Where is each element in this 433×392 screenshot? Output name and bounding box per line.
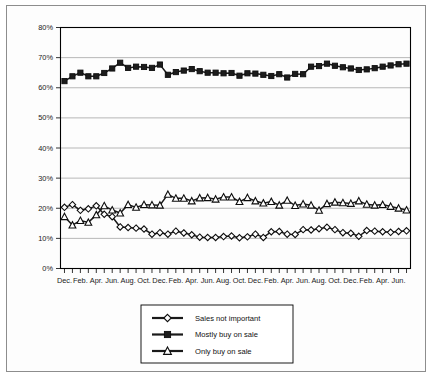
x-axis-tick-label: Feb. <box>168 276 183 285</box>
data-point-marker <box>62 79 67 84</box>
x-axis-tick-label: Feb. <box>359 276 374 285</box>
data-point-marker <box>141 64 146 69</box>
data-point-marker <box>221 71 226 76</box>
y-axis-labels: 0%10%20%30%40%50%60%70%80% <box>38 23 53 273</box>
x-axis-ticks <box>64 269 406 274</box>
y-axis-tick-label: 70% <box>38 53 53 62</box>
data-point-marker <box>197 69 202 74</box>
data-point-marker <box>85 206 91 212</box>
data-point-marker <box>133 225 139 231</box>
data-point-marker <box>285 75 290 80</box>
data-point-marker <box>189 232 195 238</box>
data-point-marker <box>212 234 218 240</box>
data-point-marker <box>253 71 258 76</box>
data-point-marker <box>387 229 393 235</box>
data-point-marker <box>380 64 385 69</box>
data-point-marker <box>236 198 243 204</box>
data-point-marker <box>324 61 329 66</box>
data-point-marker <box>388 63 393 68</box>
data-point-marker <box>395 228 401 234</box>
data-point-marker <box>245 71 250 76</box>
x-axis-tick-label: Oct. <box>328 276 342 285</box>
data-point-marker <box>118 60 123 65</box>
data-point-marker <box>301 72 306 77</box>
gridlines <box>61 28 411 239</box>
data-point-marker <box>364 67 369 72</box>
data-point-marker <box>277 72 282 77</box>
data-point-marker <box>78 70 83 75</box>
data-point-marker <box>340 229 346 235</box>
data-point-marker <box>403 228 409 234</box>
data-point-marker <box>133 64 138 69</box>
y-axis-ticks <box>56 28 61 269</box>
y-axis-tick-label: 40% <box>38 144 53 153</box>
data-point-marker <box>356 67 361 72</box>
legend-label: Only buy on sale <box>195 347 252 356</box>
x-axis-tick-label: Jun. <box>392 276 406 285</box>
data-point-marker <box>348 230 354 236</box>
legend-item-only-buy-on-sale[interactable]: Only buy on sale <box>152 347 252 356</box>
data-point-marker <box>102 70 107 75</box>
y-axis-tick-label: 0% <box>42 264 53 273</box>
data-point-marker <box>181 230 187 236</box>
data-point-marker <box>244 194 251 200</box>
line-chart: 0%10%20%30%40%50%60%70%80% Dec.Feb.Apr.J… <box>0 0 433 392</box>
x-axis-tick-label: Jun. <box>296 276 310 285</box>
data-point-marker <box>204 234 210 240</box>
x-axis-labels: Dec.Feb.Apr.Jun.Aug.Oct.Dec.Feb.Apr.Jun.… <box>57 276 406 285</box>
data-point-marker <box>101 202 108 208</box>
data-point-marker <box>109 207 116 213</box>
series-mostly-buy-on-sale <box>62 60 409 84</box>
data-point-marker <box>164 191 171 197</box>
y-axis-tick-label: 60% <box>38 83 53 92</box>
data-point-marker <box>324 224 330 230</box>
x-axis-tick-label: Aug. <box>121 276 136 285</box>
data-point-marker <box>189 66 194 71</box>
series-line <box>64 63 406 81</box>
data-point-marker <box>269 73 274 78</box>
data-point-marker <box>149 65 154 70</box>
data-point-marker <box>181 68 186 73</box>
legend-label: Mostly buy on sale <box>195 330 258 339</box>
data-point-marker <box>276 228 282 234</box>
data-point-marker <box>404 61 409 66</box>
data-point-marker <box>86 74 91 79</box>
data-point-marker <box>197 234 203 240</box>
series-only-buy-on-sale <box>61 191 410 228</box>
x-axis-tick-label: Jun. <box>105 276 119 285</box>
data-point-marker <box>77 217 84 223</box>
data-series-layer <box>61 60 410 241</box>
data-point-marker <box>348 66 353 71</box>
data-point-marker <box>244 234 250 240</box>
x-axis-tick-label: Apr. <box>376 276 389 285</box>
data-point-marker <box>70 74 75 79</box>
data-point-marker <box>308 64 313 69</box>
data-point-marker <box>316 226 322 232</box>
data-point-marker <box>165 231 171 237</box>
data-point-marker <box>164 331 170 337</box>
x-axis-tick-label: Apr. <box>90 276 103 285</box>
data-point-marker <box>379 229 385 235</box>
series-line <box>64 205 406 238</box>
data-point-marker <box>125 201 132 207</box>
legend-item-mostly-buy-on-sale[interactable]: Mostly buy on sale <box>152 330 258 339</box>
data-point-marker <box>94 74 99 79</box>
x-axis-tick-label: Oct. <box>137 276 151 285</box>
y-axis-tick-label: 20% <box>38 204 53 213</box>
data-point-marker <box>157 62 162 67</box>
data-point-marker <box>316 63 321 68</box>
data-point-marker <box>173 69 178 74</box>
data-point-marker <box>61 204 67 210</box>
x-axis-tick-label: Jun. <box>201 276 215 285</box>
x-axis-tick-label: Dec. <box>57 276 72 285</box>
data-point-marker <box>293 71 298 76</box>
data-point-marker <box>292 231 298 237</box>
x-axis-tick-label: Dec. <box>152 276 167 285</box>
x-axis-tick-label: Aug. <box>311 276 326 285</box>
legend-item-sales-not-important[interactable]: Sales not important <box>152 314 261 323</box>
x-axis-tick-label: Feb. <box>264 276 279 285</box>
data-point-marker <box>252 231 258 237</box>
x-axis-tick-label: Dec. <box>248 276 263 285</box>
data-point-marker <box>396 62 401 67</box>
chart-legend: Sales not importantMostly buy on saleOnl… <box>141 305 293 363</box>
